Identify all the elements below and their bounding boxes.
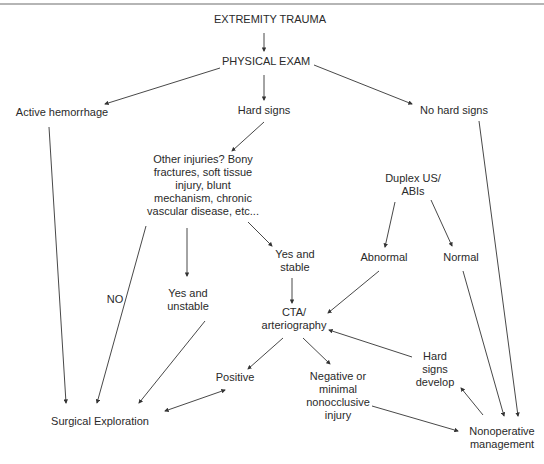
- negative-line-4: injury: [302, 409, 374, 422]
- duplex-line-2: ABIs: [378, 185, 448, 198]
- node-normal: Normal: [436, 251, 486, 264]
- flowchart-edges: [0, 0, 544, 464]
- nonoperative-line-1: Nonoperative: [464, 425, 540, 438]
- node-hard-signs: Hard signs: [234, 104, 294, 117]
- node-hard-signs-develop: Hard signs develop: [412, 350, 458, 389]
- other-injuries-line-3: injury, blunt: [128, 179, 278, 192]
- cta-line-1: CTA/: [256, 306, 332, 319]
- negative-line-1: Negative or: [302, 370, 374, 383]
- node-abnormal: Abnormal: [354, 251, 414, 264]
- yes-stable-line-2: stable: [267, 261, 323, 274]
- yes-unstable-line-2: unstable: [160, 300, 216, 313]
- node-extremity-trauma: EXTREMITY TRAUMA: [214, 13, 314, 26]
- node-physical-exam: PHYSICAL EXAM: [222, 55, 306, 68]
- node-yes-stable: Yes and stable: [267, 248, 323, 274]
- yes-stable-line-1: Yes and: [267, 248, 323, 261]
- label-no: NO: [100, 293, 130, 306]
- node-nonoperative: Nonoperative management: [464, 425, 540, 451]
- node-cta: CTA/ arteriography: [256, 306, 332, 332]
- node-no-hard-signs: No hard signs: [414, 104, 494, 117]
- duplex-line-1: Duplex US/: [378, 172, 448, 185]
- other-injuries-line-1: Other injuries? Bony: [128, 153, 278, 166]
- other-injuries-line-5: vascular disease, etc...: [128, 205, 278, 218]
- negative-line-3: nonocclusive: [302, 396, 374, 409]
- node-surgical-exploration: Surgical Exploration: [50, 415, 150, 428]
- negative-line-2: minimal: [302, 383, 374, 396]
- hard-signs-develop-line-1: Hard: [412, 350, 458, 363]
- node-yes-unstable: Yes and unstable: [160, 287, 216, 313]
- node-duplex: Duplex US/ ABIs: [378, 172, 448, 198]
- cta-line-2: arteriography: [256, 319, 332, 332]
- nonoperative-line-2: management: [464, 438, 540, 451]
- other-injuries-line-2: fractures, soft tissue: [128, 166, 278, 179]
- other-injuries-line-4: mechanism, chronic: [128, 192, 278, 205]
- node-positive: Positive: [210, 371, 260, 384]
- node-other-injuries: Other injuries? Bony fractures, soft tis…: [128, 153, 278, 218]
- yes-unstable-line-1: Yes and: [160, 287, 216, 300]
- hard-signs-develop-line-2: signs: [412, 363, 458, 376]
- node-active-hemorrhage: Active hemorrhage: [14, 106, 110, 119]
- node-negative: Negative or minimal nonocclusive injury: [302, 370, 374, 422]
- hard-signs-develop-line-3: develop: [412, 376, 458, 389]
